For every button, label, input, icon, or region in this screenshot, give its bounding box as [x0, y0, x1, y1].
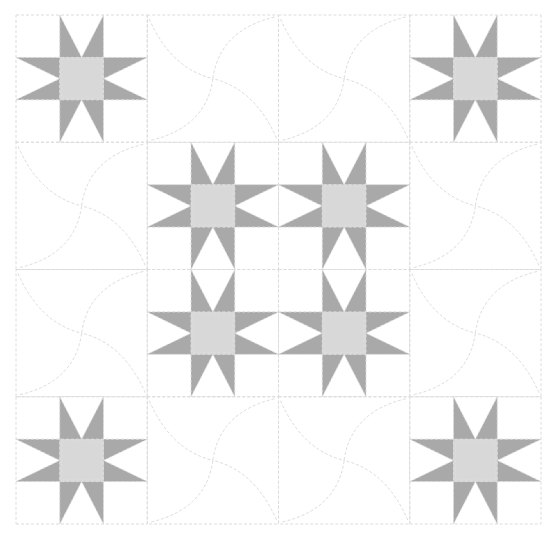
quilting-arc — [344, 79, 408, 139]
star-block — [16, 397, 147, 524]
quilting-block — [147, 397, 278, 524]
star-block — [410, 15, 541, 142]
star-center — [322, 185, 366, 227]
quilting-arc — [281, 19, 345, 79]
quilting-arc — [475, 144, 537, 206]
star-center — [60, 439, 104, 481]
star-center — [60, 57, 104, 99]
quilting-arc — [20, 206, 82, 268]
quilting-arc — [281, 401, 345, 461]
star-center — [454, 439, 498, 481]
quilting-block — [279, 15, 410, 142]
quilting-arc — [82, 272, 144, 334]
quilting-arc — [283, 79, 345, 141]
quilting-block — [279, 397, 410, 524]
quilting-block — [410, 142, 541, 269]
star-block — [410, 397, 541, 524]
quilting-arc — [151, 460, 213, 522]
quilting-arc — [149, 401, 213, 461]
quilting-arc — [18, 146, 82, 206]
quilting-arc — [213, 399, 275, 461]
quilting-arc — [344, 460, 408, 520]
star-block — [279, 270, 410, 397]
star-block — [147, 142, 278, 269]
quilting-arc — [18, 274, 82, 334]
quilting-arc — [82, 206, 146, 266]
quilting-arc — [344, 17, 406, 79]
quilting-arc — [283, 460, 345, 522]
quilting-arc — [414, 333, 476, 395]
quilting-arc — [82, 333, 146, 393]
quilting-block — [16, 142, 147, 269]
star-block — [16, 15, 147, 142]
quilting-arc — [82, 144, 144, 206]
quilting-arc — [151, 79, 213, 141]
quilting-arc — [412, 146, 476, 206]
quilting-arc — [213, 17, 275, 79]
quilting-arc — [412, 274, 476, 334]
star-center — [191, 185, 235, 227]
star-center — [322, 312, 366, 354]
quilting-arc — [475, 333, 539, 393]
quilting-arc — [213, 460, 277, 520]
quilt-canvas — [0, 0, 554, 544]
quilting-arc — [149, 19, 213, 79]
star-block — [279, 142, 410, 269]
star-center — [191, 312, 235, 354]
quilting-arc — [213, 79, 277, 139]
quilting-block — [16, 270, 147, 397]
quilting-arc — [475, 272, 537, 334]
star-center — [454, 57, 498, 99]
quilting-arc — [344, 399, 406, 461]
quilting-block — [147, 15, 278, 142]
quilting-block — [410, 270, 541, 397]
quilting-arc — [414, 206, 476, 268]
quilting-arc — [475, 206, 539, 266]
star-block — [147, 270, 278, 397]
quilting-arc — [20, 333, 82, 395]
